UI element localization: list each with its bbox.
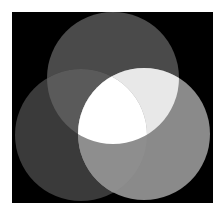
- venn-diagram: [0, 0, 222, 214]
